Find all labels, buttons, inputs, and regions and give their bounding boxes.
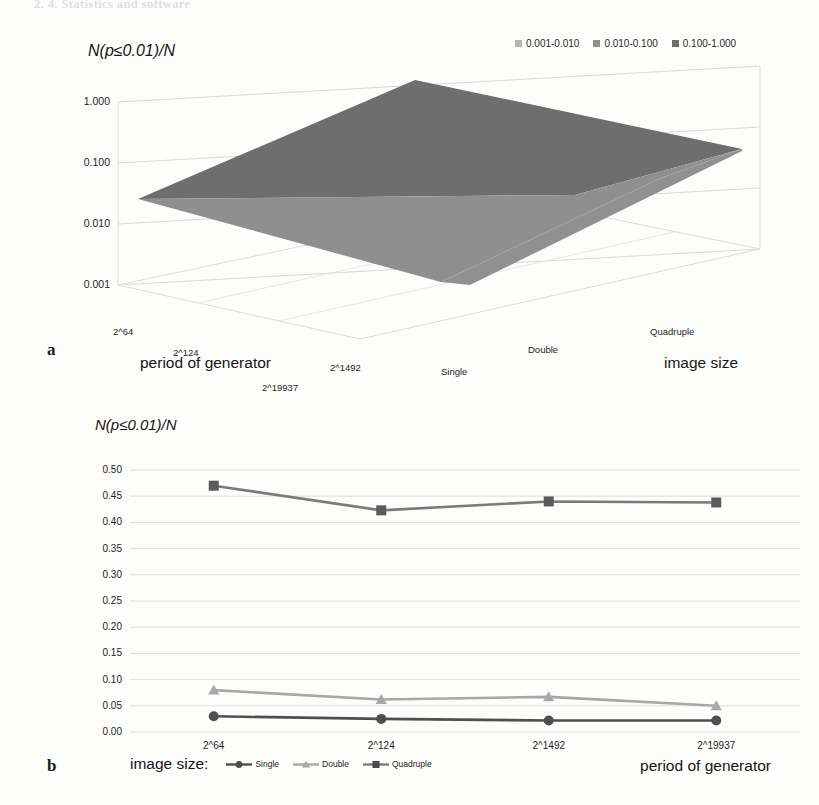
panel-a-ytick-4: 0.001 <box>62 278 110 290</box>
data-point <box>209 711 219 721</box>
panel-a-x-axis-title: period of generator <box>140 354 271 372</box>
panel-b-canvas <box>0 400 819 805</box>
data-point <box>209 481 219 491</box>
legend-marker-triangle-icon <box>293 759 319 770</box>
panel-a-canvas <box>0 14 819 394</box>
panel-a-xtick-3: 2^1492 <box>330 362 361 373</box>
panel-b-xtick-3: 2^1492 <box>533 740 566 751</box>
panel-b-ytick-10: 0.45 <box>82 490 122 501</box>
panel-a-xtick-4: 2^19937 <box>262 382 298 393</box>
panel-b-gridlines <box>130 470 800 732</box>
legend-swatch-icon <box>593 40 600 47</box>
legend-label: 0.010-0.100 <box>604 38 657 49</box>
panel-b-ytick-6: 0.25 <box>82 595 122 606</box>
series-double <box>208 684 722 710</box>
panel-b-ytick-2: 0.05 <box>82 700 122 711</box>
series-line <box>214 690 717 706</box>
panel-a-surface <box>138 80 742 285</box>
legend-label: Single <box>255 759 279 769</box>
data-point <box>544 496 554 506</box>
panel-a-ytick-2: 0.100 <box>62 156 110 168</box>
panel-b-ytick-3: 0.10 <box>82 674 122 685</box>
data-point <box>376 714 386 724</box>
legend-item-0[interactable]: 0.001-0.010 <box>515 38 579 49</box>
panel-a-ztick-1: Single <box>441 366 467 377</box>
legend-label: Quadruple <box>392 759 432 769</box>
panel-a-xtick-1: 2^64 <box>113 326 133 337</box>
panel-b-ytick-8: 0.35 <box>82 543 122 554</box>
data-point <box>376 505 386 515</box>
panel-a-ztick-3: Quadruple <box>650 326 694 337</box>
panel-b-ytick-11: 0.50 <box>82 464 122 475</box>
panel-b-ytick-7: 0.30 <box>82 569 122 580</box>
legend-item-2[interactable]: 0.100-1.000 <box>672 38 736 49</box>
data-point <box>711 715 721 725</box>
panel-b-ytick-5: 0.20 <box>82 621 122 632</box>
legend-item-quadruple[interactable]: Quadruple <box>363 759 432 770</box>
legend-item-single[interactable]: Single <box>226 759 279 770</box>
panel-b-series <box>208 481 722 726</box>
data-point <box>544 715 554 725</box>
data-point <box>711 497 721 507</box>
panel-b-xtick-1: 2^64 <box>203 740 224 751</box>
panel-b-xtick-2: 2^124 <box>368 740 395 751</box>
panel-b-legend-title: image size: <box>130 755 208 773</box>
panel-b-legend: image size: Single Double <box>130 755 432 773</box>
panel-a-legend: 0.001-0.010 0.010-0.100 0.100-1.000 <box>515 38 736 49</box>
panel-a-label: a <box>47 340 56 360</box>
panel-a-z-axis-title: image size <box>664 354 738 372</box>
panel-b-label: b <box>47 756 56 776</box>
legend-label: 0.001-0.010 <box>526 38 579 49</box>
series-line <box>214 486 717 511</box>
running-header: 2. 4. Statistics and software <box>34 0 191 12</box>
panel-a-y-axis-title: N(p≤0.01)/N <box>88 42 175 60</box>
series-single <box>209 711 722 725</box>
panel-a-ztick-2: Double <box>528 344 558 355</box>
legend-marker-square-icon <box>363 759 389 770</box>
series-line <box>214 716 717 720</box>
panel-b-ytick-1: 0.00 <box>82 726 122 737</box>
panel-a-3d-surface-chart: N(p≤0.01)/N 1.000 0.100 0.010 0.001 2^64… <box>0 14 819 394</box>
legend-item-1[interactable]: 0.010-0.100 <box>593 38 657 49</box>
panel-b-x-axis-title: period of generator <box>640 757 771 775</box>
legend-item-double[interactable]: Double <box>293 759 349 770</box>
legend-label: 0.100-1.000 <box>683 38 736 49</box>
legend-swatch-icon <box>515 40 522 47</box>
panel-b-line-chart: N(p≤0.01)/N 0.000.050.100.150.200.250.30… <box>0 400 819 805</box>
series-quadruple <box>209 481 722 516</box>
legend-marker-circle-icon <box>226 759 252 770</box>
legend-label: Double <box>322 759 349 769</box>
panel-b-ytick-4: 0.15 <box>82 647 122 658</box>
panel-b-ytick-9: 0.40 <box>82 516 122 527</box>
panel-b-xtick-4: 2^19937 <box>697 740 735 751</box>
legend-swatch-icon <box>672 40 679 47</box>
panel-a-ytick-1: 1.000 <box>62 95 110 107</box>
figure-page: 2. 4. Statistics and software <box>0 0 819 805</box>
panel-a-ytick-3: 0.010 <box>62 217 110 229</box>
